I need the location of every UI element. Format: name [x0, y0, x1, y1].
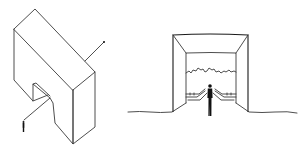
perspective-panel: [128, 34, 297, 116]
ground-line: [128, 103, 297, 113]
railing-right: [213, 89, 236, 100]
axonometric-panel: [14, 9, 105, 144]
person-figure-small: [23, 121, 25, 132]
person-figure: [207, 84, 212, 116]
frame-diagonals: [173, 35, 248, 53]
sketch-canvas: [0, 0, 306, 156]
skyline: [186, 68, 236, 73]
sight-line-arrow: [85, 42, 104, 61]
block-top-face: [14, 9, 95, 90]
sight-line-entry: [24, 98, 50, 120]
arrow-head-icon: [103, 41, 105, 43]
railing-left: [186, 89, 207, 100]
block-front-face: [73, 72, 95, 144]
